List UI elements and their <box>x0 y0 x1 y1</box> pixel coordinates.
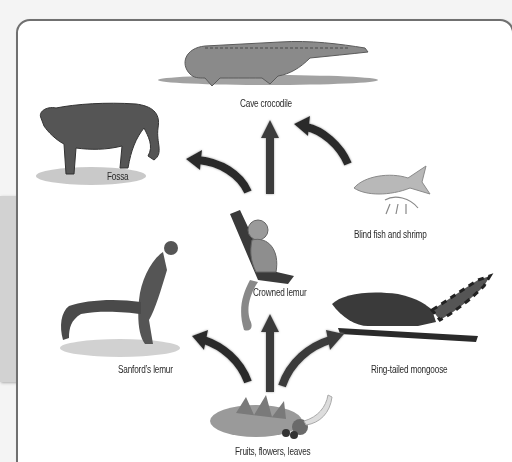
arrows-layer <box>0 0 512 462</box>
arrow-plants-to-mongoose <box>282 330 344 386</box>
arrow-crowned-to-fossa <box>186 150 248 192</box>
arrow-fish-to-crocodile <box>294 116 348 164</box>
arrow-crowned-to-crocodile <box>261 120 279 194</box>
arrow-plants-to-crowned <box>261 314 279 392</box>
arrow-plants-to-sanford <box>192 330 248 382</box>
